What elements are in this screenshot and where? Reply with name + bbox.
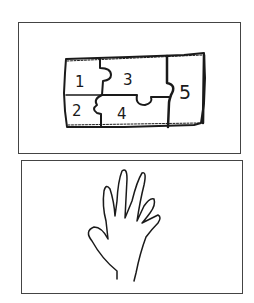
piece-3-label: 3 (123, 71, 133, 89)
piece-2-label: 2 (72, 102, 82, 120)
hand-panel (21, 160, 243, 294)
piece-1-label: 1 (75, 73, 85, 91)
piece-4-label: 4 (117, 105, 127, 123)
hand-icon (22, 161, 244, 295)
puzzle-panel: 1 2 3 4 5 (18, 22, 241, 154)
puzzle-sketch-icon: 1 2 3 4 5 (19, 23, 242, 155)
piece-5-label: 5 (179, 81, 191, 103)
